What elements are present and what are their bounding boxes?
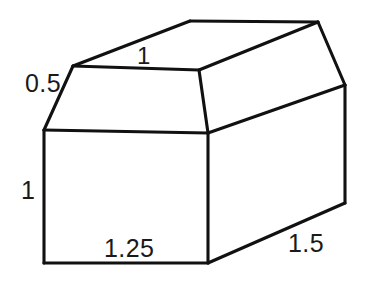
dimension-label-front-width: 1.25: [104, 236, 154, 261]
dimension-label-roof-ridge: 1: [137, 44, 151, 68]
edge-roof-ridge-back: [190, 21, 318, 22]
dimension-label-wall-height: 1: [21, 178, 35, 203]
prism-diagram-canvas: 1 0.5 1 1.25 1.5: [0, 0, 385, 281]
dimension-label-depth: 1.5: [288, 231, 324, 256]
prism-line-drawing: [0, 0, 385, 281]
dimension-label-roof-slope: 0.5: [25, 71, 61, 96]
